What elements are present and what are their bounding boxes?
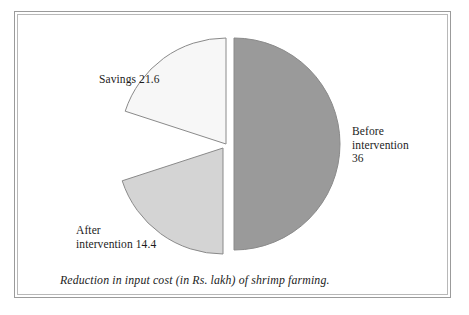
pie-chart-plot-area: Savings 21.6 Before intervention 36 Afte…	[18, 15, 455, 302]
pie-slice-savings[interactable]	[125, 38, 226, 144]
pie-label-before-intervention: Before intervention 36	[352, 125, 409, 166]
figure-frame-inner-rule: Savings 21.6 Before intervention 36 Afte…	[17, 14, 448, 295]
pie-slice-before-intervention[interactable]	[234, 38, 340, 250]
pie-label-after-intervention: After intervention 14.4	[76, 224, 156, 251]
figure-caption: Reduction in input cost (in Rs. lakh) of…	[60, 273, 330, 288]
figure-frame: Savings 21.6 Before intervention 36 Afte…	[14, 11, 451, 298]
pie-label-savings: Savings 21.6	[99, 73, 160, 87]
